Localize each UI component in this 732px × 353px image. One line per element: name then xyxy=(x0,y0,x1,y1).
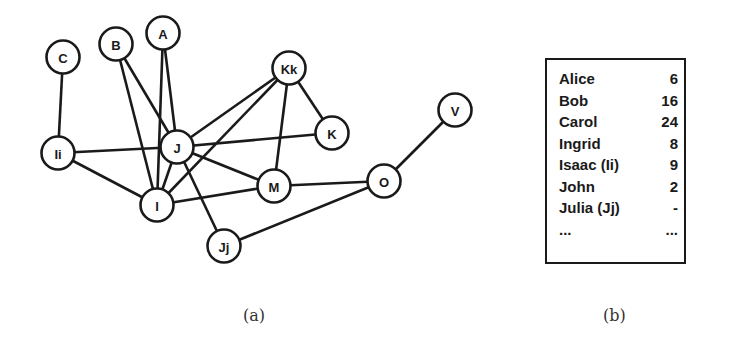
node-label: Jj xyxy=(219,240,230,255)
row-name: Alice xyxy=(559,68,595,90)
node-label: A xyxy=(158,27,168,42)
node-label: K xyxy=(327,127,337,142)
edge-J-Kk xyxy=(177,68,289,147)
row-name: ... xyxy=(559,219,572,241)
row-name: John xyxy=(559,176,595,198)
row-value: ... xyxy=(665,219,678,241)
name-value-table: Alice6 Bob16 Carol24 Ingrid8 Isaac (Ii)9… xyxy=(545,58,686,264)
edge-A-I xyxy=(157,33,163,205)
node-label: B xyxy=(111,38,120,53)
node-Jj: Jj xyxy=(208,230,241,263)
node-label: I xyxy=(155,199,159,214)
row-value: 6 xyxy=(670,68,678,90)
node-O: O xyxy=(368,165,401,198)
node-Ii: Ii xyxy=(42,137,75,170)
row-value: 9 xyxy=(670,154,678,176)
node-M: M xyxy=(258,170,291,203)
node-Kk: Kk xyxy=(273,52,306,85)
node-B: B xyxy=(100,28,133,61)
row-value: 8 xyxy=(670,133,678,155)
table-row: Alice6 xyxy=(559,68,678,90)
node-I: I xyxy=(141,189,174,222)
table-row: Bob16 xyxy=(559,90,678,112)
graph-edges xyxy=(58,33,455,246)
row-value: - xyxy=(673,197,678,219)
row-name: Bob xyxy=(559,90,588,112)
table-row: Carol24 xyxy=(559,111,678,133)
node-label: Kk xyxy=(281,62,298,77)
table-row: Ingrid8 xyxy=(559,133,678,155)
node-A: A xyxy=(147,17,180,50)
node-label: J xyxy=(173,141,180,156)
node-label: V xyxy=(451,104,460,119)
caption-b: (b) xyxy=(603,306,626,325)
node-K: K xyxy=(316,117,349,150)
row-name: Carol xyxy=(559,111,597,133)
table-row: Isaac (Ii)9 xyxy=(559,154,678,176)
node-label: O xyxy=(379,175,389,190)
table-row: ...... xyxy=(559,219,678,241)
node-C: C xyxy=(47,41,80,74)
edge-Kk-M xyxy=(274,68,289,186)
row-value: 16 xyxy=(661,90,678,112)
node-V: V xyxy=(439,94,472,127)
caption-a: (a) xyxy=(243,306,265,325)
table-row: Julia (Jj)- xyxy=(559,197,678,219)
edge-B-I xyxy=(116,44,157,205)
row-name: Julia (Jj) xyxy=(559,197,620,219)
edge-J-K xyxy=(177,133,332,147)
row-name: Isaac (Ii) xyxy=(559,154,619,176)
node-label: C xyxy=(58,51,68,66)
row-value: 24 xyxy=(661,111,678,133)
node-label: M xyxy=(269,180,280,195)
table-row: John2 xyxy=(559,176,678,198)
row-value: 2 xyxy=(670,176,678,198)
node-label: Ii xyxy=(54,147,61,162)
edge-B-J xyxy=(116,44,177,147)
node-J: J xyxy=(161,131,194,164)
row-name: Ingrid xyxy=(559,133,601,155)
